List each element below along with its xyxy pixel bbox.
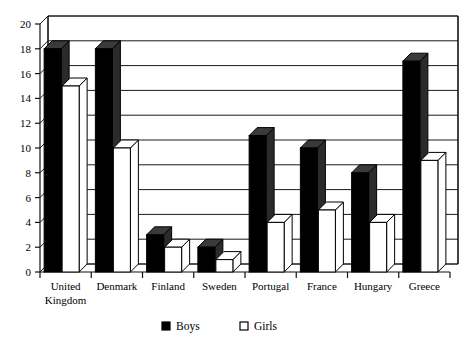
x-axis-category-label-line: Denmark — [96, 280, 137, 292]
bar-front-face — [44, 49, 61, 272]
y-axis-tick-label: 18 — [20, 43, 32, 55]
x-axis-category-label-line: Kingdom — [45, 294, 87, 306]
bar-front-face — [403, 61, 420, 272]
bar-front-face — [198, 247, 215, 272]
bar-front-face — [352, 173, 369, 272]
x-axis-category-label: France — [307, 280, 337, 292]
bar-front-face — [249, 136, 266, 272]
y-axis-tick-label: 16 — [20, 68, 32, 80]
x-axis-category-label-line: Greece — [409, 280, 440, 292]
legend-item-label: Girls — [254, 320, 278, 332]
filled-square-icon — [162, 322, 170, 330]
legend-item-label: Boys — [176, 320, 200, 333]
bar-front-face — [370, 222, 387, 272]
bar-girls-finland — [165, 239, 190, 272]
x-axis-category-label: Denmark — [96, 280, 137, 292]
bar-front-face — [421, 160, 438, 272]
bar-side-face — [130, 140, 138, 272]
x-axis-category-label-line: Hungary — [354, 280, 393, 292]
bar-side-face — [79, 78, 87, 272]
bar-front-face — [147, 235, 164, 272]
legend-item-girls[interactable]: Girls — [240, 320, 278, 332]
bar-side-face — [284, 214, 292, 272]
x-axis-category-label: Sweden — [202, 280, 237, 292]
x-axis-category-label-line: Portugal — [252, 280, 289, 292]
bar-girls-france — [318, 202, 343, 272]
bar-front-face — [165, 247, 182, 272]
bar-girls-greece — [421, 152, 446, 272]
y-axis-tick-label: 14 — [20, 92, 32, 104]
x-axis-category-label: Hungary — [354, 280, 393, 292]
bar-front-face — [267, 222, 284, 272]
x-axis-category-label: Greece — [409, 280, 440, 292]
bar-girls-united-kingdom — [62, 78, 87, 272]
bar-side-face — [387, 214, 395, 272]
x-axis-category-label-line: Finland — [151, 280, 185, 292]
bar-girls-portugal — [267, 214, 292, 272]
y-axis-tick-label: 20 — [20, 18, 32, 30]
bar-chart: 02468101214161820 UnitedKingdomDenmarkFi… — [0, 0, 468, 351]
y-axis-tick-label: 2 — [26, 241, 32, 253]
bar-side-face — [335, 202, 343, 272]
y-axis-tick-label: 4 — [26, 216, 32, 228]
bar-side-face — [438, 152, 446, 272]
open-square-icon — [240, 322, 248, 330]
x-axis-category-label-line: United — [51, 280, 81, 292]
x-axis-category-label-line: France — [307, 280, 337, 292]
y-axis-tick-label: 6 — [26, 192, 32, 204]
bar-front-face — [216, 260, 233, 272]
chart-canvas: 02468101214161820 UnitedKingdomDenmarkFi… — [0, 0, 468, 351]
bar-girls-denmark — [113, 140, 138, 272]
bar-front-face — [300, 148, 317, 272]
bar-front-face — [113, 148, 130, 272]
bar-front-face — [95, 49, 112, 272]
x-axis-category-label-line: Sweden — [202, 280, 237, 292]
bar-girls-hungary — [370, 214, 395, 272]
bar-front-face — [318, 210, 335, 272]
bar-front-face — [62, 86, 79, 272]
y-axis-tick-label: 8 — [26, 167, 32, 179]
y-axis-tick-label: 12 — [20, 117, 31, 129]
x-axis-category-label: Portugal — [252, 280, 289, 292]
y-axis-tick-label: 10 — [20, 142, 32, 154]
y-axis-tick-label: 0 — [26, 266, 32, 278]
x-axis-category-label: Finland — [151, 280, 185, 292]
